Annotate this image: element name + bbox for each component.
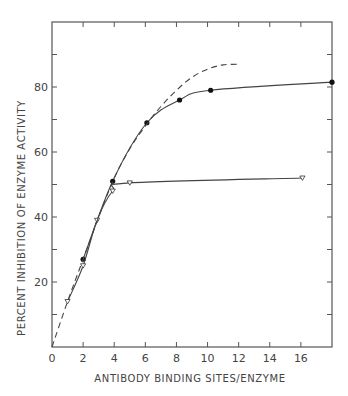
x-tick-label: 10 — [201, 352, 215, 365]
y-tick-label: 80 — [34, 81, 48, 94]
x-tick-label: 4 — [111, 352, 118, 365]
x-tick-label: 2 — [80, 352, 87, 365]
x-tick-label: 14 — [263, 352, 277, 365]
plot-border — [52, 22, 332, 347]
data-point-filled-circle — [329, 80, 334, 85]
y-tick-label: 60 — [34, 146, 48, 159]
x-tick-label: 12 — [232, 352, 246, 365]
x-tick-label: 16 — [294, 352, 308, 365]
data-point-open-triangle — [81, 264, 86, 268]
series-filled-circles — [81, 80, 335, 262]
x-tick-label: 0 — [49, 352, 56, 365]
series-line — [68, 178, 303, 302]
series-layer — [52, 64, 335, 347]
series-theoretical-curve — [52, 64, 240, 347]
x-axis-title: ANTIBODY BINDING SITES/ENZYME — [94, 373, 285, 384]
data-point-filled-circle — [110, 179, 115, 184]
data-point-filled-circle — [208, 88, 213, 93]
series-line — [52, 64, 240, 347]
series-line — [83, 82, 332, 259]
y-tick-label: 20 — [34, 276, 48, 289]
x-axis-ticks: 0246810121416 — [49, 22, 308, 365]
plot-frame — [52, 22, 332, 347]
x-tick-label: 8 — [173, 352, 180, 365]
chart: 0246810121416 20406080 ANTIBODY BINDING … — [0, 0, 348, 396]
x-tick-label: 6 — [142, 352, 149, 365]
y-axis-title: PERCENT INHIBITION OF ENZYME ACTIVITY — [16, 100, 27, 336]
y-tick-label: 40 — [34, 211, 48, 224]
data-point-filled-circle — [177, 97, 182, 102]
series-open-triangles — [65, 176, 305, 304]
data-point-open-triangle — [65, 300, 70, 304]
